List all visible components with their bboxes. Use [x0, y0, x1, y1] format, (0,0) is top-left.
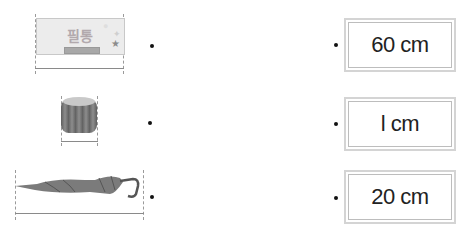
answer-box-1cm[interactable]: l cm	[344, 97, 456, 151]
guide-line-right	[97, 96, 98, 146]
answer-text: l cm	[381, 111, 419, 137]
measure-line	[35, 68, 124, 69]
match-dot-right-2[interactable]	[334, 122, 338, 126]
star-icon: ★	[111, 38, 120, 49]
answer-box-20cm[interactable]: 20 cm	[344, 170, 456, 224]
measure-line	[15, 213, 144, 214]
zipper-icon	[64, 47, 100, 54]
pencil-case-icon: 필통 ● ✦ ★	[36, 18, 125, 55]
answer-text: 20 cm	[371, 184, 428, 210]
match-dot-right-1[interactable]	[334, 43, 338, 47]
measure-line	[61, 141, 98, 142]
match-dot-left-3[interactable]	[150, 195, 154, 199]
eraser-cap-top	[63, 97, 95, 106]
answer-text: 60 cm	[371, 32, 428, 58]
answer-box-60cm[interactable]: 60 cm	[344, 18, 456, 72]
match-dot-left-1[interactable]	[150, 44, 154, 48]
match-dot-left-2[interactable]	[148, 121, 152, 125]
star-icon: ●	[103, 21, 108, 31]
match-dot-right-3[interactable]	[334, 196, 338, 200]
pencil-case-label: 필통	[67, 25, 93, 45]
umbrella-icon	[15, 174, 145, 204]
